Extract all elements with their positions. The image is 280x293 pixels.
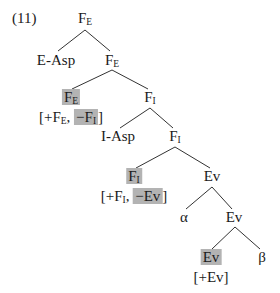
edge-fi2-fihead [136,147,175,168]
node-subscript: E [113,59,119,69]
highlighted-head: FE [62,89,80,105]
node-subscript: E [72,96,78,106]
node-subscript: I [178,135,181,145]
edge-ev2-beta [235,227,260,249]
edge-ev1-alpha [186,187,212,209]
fi-head-features: [+FI, −Ev] [101,188,168,205]
node-subscript: E [86,17,92,27]
node-beta: β [258,249,266,266]
edge-fe2-fehead [72,70,112,89]
edge-ev2-evhead [212,227,235,249]
ev-head-features: [+Ev] [193,269,228,286]
highlighted-head: FI [126,168,142,184]
node-fe-head: FE [62,89,80,106]
node-ev2: Ev [226,209,243,226]
tree-edges [0,0,280,293]
node-subscript: I [137,175,140,185]
fe-head-features: [+FE, −FI] [39,109,103,126]
node-alpha: α [180,209,188,226]
node-fe2: FE [105,52,119,69]
neg-feature: −F [76,109,93,125]
node-subscript: I [153,96,156,106]
node-fi1: FI [144,89,156,106]
edge-root-easp [58,30,85,51]
feature-close: ] [162,188,167,204]
node-e-asp: E-Asp [37,52,75,69]
highlighted-head: Ev [201,249,222,265]
example-number: (11) [12,10,36,27]
node-fi-head: FI [126,168,142,185]
node-ev-head: Ev [201,249,222,266]
edge-fi2-ev1 [175,147,210,168]
edge-fe2-fi1 [112,70,148,89]
feature-open: [+F [101,188,123,204]
node-ev1: Ev [204,168,221,185]
feature-close: ] [98,109,103,125]
edge-fi1-iasp [120,108,150,128]
node-fi2: FI [169,128,181,145]
feature-open: [+F [39,109,61,125]
edge-root-fe2 [85,30,110,51]
edge-ev1-ev2 [212,187,232,209]
feature-subscript: I [93,116,96,126]
node-root-fe: FE [78,10,92,27]
node-i-asp: I-Asp [101,128,135,145]
feature-sep: , [67,109,75,125]
highlighted-feature: −Ev [133,188,162,204]
highlighted-feature: −FI [74,109,98,125]
edge-fi1-fi2 [150,108,173,128]
